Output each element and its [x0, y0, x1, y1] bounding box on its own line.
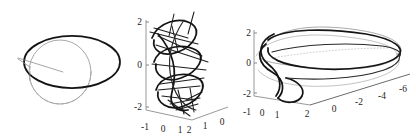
- right-x-label-0: 0: [260, 108, 265, 118]
- left-plot-svg: [0, 0, 128, 137]
- middle-y-label-0: 0: [220, 117, 225, 127]
- right-y-label-m6: -6: [399, 84, 407, 94]
- axis-trace: [272, 48, 388, 58]
- panel-right-spiral: 2 0 -2 -1 0 1 2 0 -2 -4 -6 -8: [238, 0, 416, 137]
- right-x-label-1: 1: [275, 110, 280, 120]
- middle-x-label-2: 2: [187, 125, 192, 135]
- right-y-label-m4: -4: [378, 91, 386, 101]
- middle-x-axis-line: [146, 110, 192, 120]
- panel-middle-helix: 2 0 -2 -1 0 1 2 1 0: [128, 0, 238, 137]
- figure-canvas: 2 0 -2 -1 0 1 2 1 0: [0, 0, 416, 137]
- middle-x-label-m1: -1: [141, 122, 149, 132]
- middle-z-label-m2: -2: [134, 102, 142, 112]
- outer-ellipse: [24, 36, 120, 88]
- middle-x-label-1: 1: [178, 125, 183, 135]
- middle-z-label-0: 0: [137, 60, 142, 70]
- right-plot-svg: 2 0 -2 -1 0 1 2 0 -2 -4 -6 -8: [238, 0, 416, 137]
- right-z-label-2: 2: [246, 28, 251, 38]
- middle-plot-svg: 2 0 -2 -1 0 1 2 1 0: [128, 0, 238, 137]
- right-z-label-0: 0: [246, 58, 251, 68]
- panel-left-projection: [0, 0, 128, 137]
- right-x-label-m1: -1: [243, 107, 251, 117]
- middle-y-label-1: 1: [203, 121, 208, 131]
- middle-z-label-2: 2: [137, 17, 142, 27]
- middle-x-label-0: 0: [161, 124, 166, 134]
- right-y-label-m2: -2: [355, 97, 363, 107]
- right-x-label-2: 2: [305, 109, 310, 119]
- right-y-label-0: 0: [332, 104, 337, 114]
- right-z-label-m2: -2: [243, 89, 251, 99]
